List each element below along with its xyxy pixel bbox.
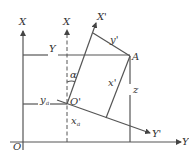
label-z: z bbox=[132, 84, 139, 95]
label-global-x: X bbox=[18, 16, 27, 27]
angle-arc bbox=[67, 81, 75, 82]
dashed-x-arrow-icon bbox=[64, 29, 70, 35]
label-global-y-bottom: Y bbox=[182, 136, 189, 147]
coordinate-diagram: X X X' Y y' A α x' z ya O' xa Y' Y O bbox=[0, 0, 189, 162]
label-local-x: X' bbox=[96, 11, 107, 22]
label-origin: O bbox=[13, 141, 21, 152]
label-dashed-x: X bbox=[62, 16, 71, 27]
label-global-y-top: Y bbox=[49, 43, 57, 54]
label-ya: ya bbox=[39, 94, 50, 106]
label-point-a: A bbox=[131, 51, 139, 62]
local-x-axis bbox=[67, 23, 96, 104]
label-local-origin: O' bbox=[70, 96, 81, 107]
label-local-y: Y' bbox=[152, 128, 161, 139]
label-y-prime: y' bbox=[109, 34, 118, 45]
label-angle: α bbox=[70, 69, 77, 80]
label-xa: xa bbox=[71, 115, 81, 127]
label-x-prime: x' bbox=[108, 77, 116, 88]
